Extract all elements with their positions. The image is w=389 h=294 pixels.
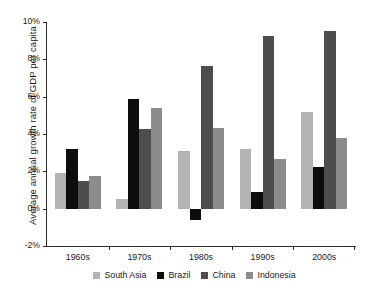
chart-page: Average annual growth rate of GDP per ca… <box>0 0 389 294</box>
x-tick-label: 1960s <box>66 252 90 262</box>
plot-area <box>47 22 355 246</box>
legend-swatch-icon <box>201 272 208 279</box>
y-tick-label: 10% <box>23 16 40 26</box>
legend-swatch-icon <box>93 272 100 279</box>
x-axis-line <box>46 246 356 247</box>
legend-label: China <box>212 270 235 280</box>
x-tick-label: 1980s <box>189 252 213 262</box>
bar <box>324 31 336 208</box>
y-tick-mark <box>43 246 47 247</box>
legend-label: Brazil <box>168 270 190 280</box>
bar <box>240 149 252 209</box>
bar <box>274 159 286 208</box>
chart-legend: South AsiaBrazilChinaIndonesia <box>0 270 389 280</box>
bar <box>313 167 325 209</box>
legend-label: South Asia <box>104 270 146 280</box>
legend-item: Brazil <box>157 270 190 280</box>
bar <box>128 99 140 209</box>
x-tick-mark <box>293 246 294 250</box>
bar <box>66 149 78 209</box>
bar <box>55 173 67 208</box>
x-tick-label: 1990s <box>251 252 275 262</box>
bar <box>89 176 101 209</box>
legend-label: Indonesia <box>257 270 295 280</box>
y-tick-label: -2% <box>25 240 40 250</box>
y-tick-label: 0% <box>28 203 40 213</box>
bar <box>151 108 163 209</box>
y-tick-label: 2% <box>28 165 40 175</box>
legend-item: Indonesia <box>246 270 295 280</box>
legend-item: South Asia <box>93 270 146 280</box>
bar <box>78 181 90 209</box>
bar <box>336 138 348 209</box>
bar <box>213 128 225 208</box>
legend-item: China <box>201 270 235 280</box>
bar <box>263 36 275 209</box>
x-tick-label: 2000s <box>312 252 336 262</box>
bar <box>139 129 151 208</box>
x-tick-label: 1970s <box>127 252 151 262</box>
x-tick-mark <box>170 246 171 250</box>
bar <box>251 192 263 209</box>
x-tick-mark <box>232 246 233 250</box>
x-tick-mark <box>354 246 355 250</box>
legend-swatch-icon <box>157 272 164 279</box>
y-tick-label: 8% <box>28 53 40 63</box>
bar <box>190 209 202 220</box>
x-tick-mark <box>109 246 110 250</box>
bar <box>301 112 313 209</box>
legend-swatch-icon <box>246 272 253 279</box>
y-tick-label: 6% <box>28 91 40 101</box>
bar <box>201 66 213 209</box>
y-tick-label: 4% <box>28 128 40 138</box>
bar <box>116 199 128 208</box>
bar <box>178 151 190 209</box>
